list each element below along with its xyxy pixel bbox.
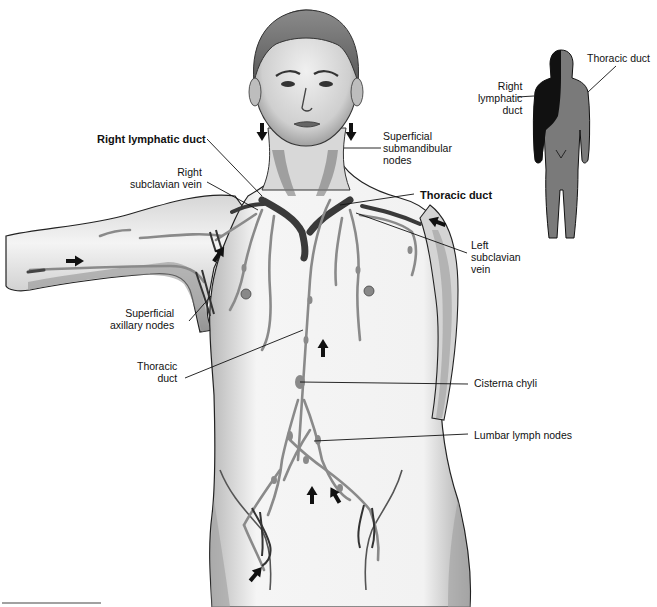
label-superficial-axillary-nodes: Superficial axillary nodes — [110, 307, 174, 331]
inset-figure — [533, 50, 589, 238]
eye-right — [281, 81, 295, 87]
label-cisterna-chyli: Cisterna chyli — [474, 377, 537, 389]
ear-left — [351, 78, 363, 106]
label-right-lymphatic-duct: Right lymphatic duct — [97, 133, 206, 145]
eye-left — [319, 81, 333, 87]
nipple-right — [241, 289, 251, 299]
label-inset-right-lymphatic-duct: Right lymphatic duct — [478, 80, 522, 116]
flow-arrow-icon — [346, 123, 357, 141]
leader-right-lymphatic-duct — [207, 139, 262, 196]
label-thoracic-duct-top: Thoracic duct — [420, 189, 492, 201]
label-right-subclavian-vein: Right subclavian vein — [130, 166, 202, 190]
flow-arrow-icon — [257, 123, 268, 141]
ear-right — [249, 78, 261, 106]
anatomy-illustration — [0, 0, 657, 607]
label-left-subclavian-vein: Left subclavian vein — [471, 239, 521, 275]
main-figure — [6, 10, 471, 607]
label-superficial-submandibular-nodes: Superficial submandibular nodes — [383, 130, 452, 166]
hand-vessel — [28, 270, 44, 272]
lymphatic-diagram: Right lymphatic ductRight subclavian vei… — [0, 0, 657, 607]
leader-inset-thoracic-duct — [588, 66, 616, 92]
label-inset-thoracic-duct: Thoracic duct — [587, 52, 650, 64]
label-thoracic-duct-mid: Thoracic duct — [137, 360, 177, 384]
label-lumbar-lymph-nodes: Lumbar lymph nodes — [474, 429, 572, 441]
nipple-left — [364, 286, 374, 296]
